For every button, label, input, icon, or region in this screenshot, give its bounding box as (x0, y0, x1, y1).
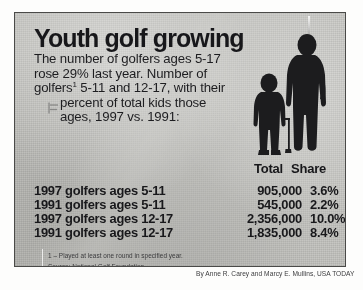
deck-line-4: percent of total kids those (34, 96, 249, 111)
golfer-silhouettes-icon (247, 31, 343, 158)
row-label: 1997 golfers ages 5-11 (34, 183, 165, 198)
column-header-total: Total (209, 161, 283, 176)
row-total: 545,000 (209, 197, 302, 212)
deck-line-3-b: 5-11 and 12-17, with their (77, 80, 225, 95)
golf-cart-icon (47, 101, 61, 115)
row-label: 1991 golfers ages 12-17 (34, 225, 173, 240)
row-label: 1997 golfers ages 12-17 (34, 211, 173, 226)
footnote-divider (42, 249, 43, 267)
table-row: 1991 golfers ages 12-17 1,835,000 8.4% (34, 225, 326, 240)
deck-line-5: ages, 1997 vs. 1991: (34, 110, 249, 125)
row-label: 1991 golfers ages 5-11 (34, 197, 165, 212)
deck-text: The number of golfers ages 5-17 rose 29%… (34, 52, 249, 125)
table-row: 1997 golfers ages 12-17 2,356,000 10.0% (34, 211, 326, 226)
page-title: Youth golf growing (34, 24, 244, 53)
row-share: 3.6% (310, 183, 338, 198)
source-text: Source: National Golf Foundation (48, 263, 144, 267)
row-share: 2.2% (310, 197, 338, 212)
row-total: 2,356,000 (209, 211, 302, 226)
deck-line-1: The number of golfers ages 5-17 (34, 51, 221, 66)
deck-line-2: rose 29% last year. Number of (34, 66, 207, 81)
row-share: 10.0% (310, 211, 345, 226)
table-row: 1991 golfers ages 5-11 545,000 2.2% (34, 197, 326, 212)
row-total: 905,000 (209, 183, 302, 198)
row-total: 1,835,000 (209, 225, 302, 240)
chart-container: Youth golf growing The number of golfers… (14, 12, 346, 267)
byline: By Anne R. Carey and Marcy E. Mullins, U… (196, 270, 355, 277)
table-row: 1997 golfers ages 5-11 905,000 3.6% (34, 183, 326, 198)
column-header-share: Share (291, 161, 326, 176)
footnote-text: 1 – Played at least one round in specifi… (48, 252, 183, 259)
deck-line-3-a: golfers (34, 80, 73, 95)
infographic-page: Youth golf growing The number of golfers… (0, 0, 363, 290)
row-share: 8.4% (310, 225, 338, 240)
